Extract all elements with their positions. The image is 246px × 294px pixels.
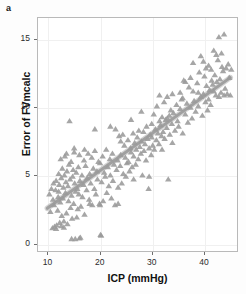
y-tick-label: 10 [8,101,30,111]
data-point-marker [169,91,175,96]
data-point-marker [83,187,89,192]
data-point-marker [115,201,121,206]
data-point-marker [143,157,149,162]
data-point-marker [130,176,136,181]
x-tick-mark [152,252,153,255]
figure-panel: a Error of FVmcalc ICP (mmHg) 0510151020… [0,0,246,294]
data-point-marker [66,118,72,123]
data-point-marker [161,99,167,104]
data-point-marker [159,146,165,151]
data-point-marker [218,50,224,55]
x-axis-label: ICP (mmHg) [37,272,238,284]
data-point-marker [104,190,110,195]
data-point-marker [92,126,98,131]
data-point-marker [55,171,61,176]
x-tick-mark [204,252,205,255]
data-point-marker [76,152,82,157]
data-point-marker [63,210,69,215]
data-point-marker [71,145,77,150]
x-tick-mark [47,252,48,255]
data-point-marker [70,201,76,206]
y-tick-mark [34,175,37,176]
data-point-marker [78,203,84,208]
data-point-marker [215,57,221,62]
data-point-marker [68,159,74,164]
x-tick-label: 30 [140,257,164,267]
y-tick-label: 15 [8,33,30,43]
data-point-marker [169,140,175,145]
data-point-marker [198,53,204,58]
data-point-marker [92,148,98,153]
data-point-marker [46,191,52,196]
data-point-marker [90,165,96,170]
data-point-marker [132,161,138,166]
data-point-marker [103,146,109,151]
data-point-marker [221,31,227,36]
data-point-marker [165,176,171,181]
data-point-marker [179,95,185,100]
data-point-marker [143,123,149,128]
x-tick-label: 40 [192,257,216,267]
data-point-marker [148,152,154,157]
y-tick-mark [34,107,37,108]
data-point-marker [200,58,206,63]
data-point-marker [138,108,144,113]
data-point-marker [108,195,114,200]
data-point-marker [159,114,165,119]
data-point-marker [194,80,200,85]
data-point-marker [148,121,154,126]
data-point-marker [179,130,185,135]
data-point-marker [54,207,60,212]
data-point-marker [79,172,85,177]
y-tick-mark [34,244,37,245]
panel-label: a [6,3,11,13]
data-point-marker [100,198,106,203]
y-tick-label: 0 [8,238,30,248]
data-point-marker [151,111,157,116]
data-point-marker [135,156,141,161]
y-tick-mark [34,39,37,40]
data-point-marker [136,127,142,132]
data-point-marker [156,92,162,97]
data-point-marker [117,138,123,143]
x-tick-mark [100,252,101,255]
data-point-marker [82,163,88,168]
data-point-marker [75,164,81,169]
data-point-marker [81,157,87,162]
x-tick-label: 10 [35,257,59,267]
data-point-marker [199,113,205,118]
data-point-marker [65,198,71,203]
data-point-marker [109,150,115,155]
data-point-marker [107,156,113,161]
data-point-marker [130,130,136,135]
data-point-marker [189,115,195,120]
data-point-marker [128,117,134,122]
x-tick-label: 20 [88,257,112,267]
y-tick-label: 5 [8,169,30,179]
data-point-marker [107,172,113,177]
data-point-marker [190,60,196,65]
data-point-marker [164,94,170,99]
data-point-marker [81,211,87,216]
data-point-marker [59,165,65,170]
data-point-marker [225,61,231,66]
data-point-marker [106,183,112,188]
data-point-marker [208,77,214,82]
data-point-marker [177,90,183,95]
data-point-marker [173,102,179,107]
data-point-marker [175,123,181,128]
data-point-marker [99,153,105,158]
data-point-marker [107,123,113,128]
data-point-marker [195,90,201,95]
data-point-marker [91,186,97,191]
data-point-marker [196,69,202,74]
data-point-marker [59,213,65,218]
data-point-marker [93,191,99,196]
data-point-marker [112,126,118,131]
data-point-marker [120,132,126,137]
data-point-marker [187,75,193,80]
data-point-marker [210,48,216,53]
data-point-marker [228,66,234,71]
data-point-marker [146,173,152,178]
data-point-marker [125,137,131,142]
